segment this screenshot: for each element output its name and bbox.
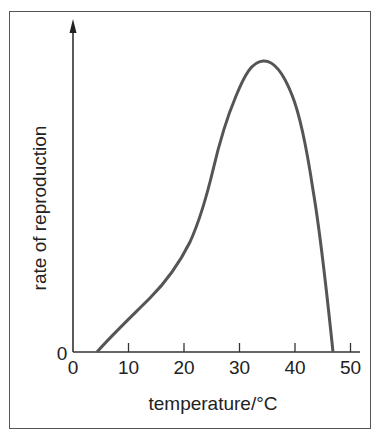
x-tick-label: 10 bbox=[118, 357, 139, 378]
y-axis-title: rate of reproduction bbox=[29, 126, 50, 291]
y-axis-arrow-icon bbox=[70, 19, 77, 33]
x-tick-label: 30 bbox=[229, 357, 250, 378]
x-tick-label: 50 bbox=[340, 357, 361, 378]
x-ticks bbox=[129, 343, 351, 352]
x-tick-label: 20 bbox=[173, 357, 194, 378]
x-axis-title: temperature/°C bbox=[148, 393, 277, 414]
chart-svg: 0 10 20 30 40 50 0 temperature/°C rate o… bbox=[0, 0, 374, 435]
x-tick-label: 40 bbox=[284, 357, 305, 378]
y-origin-label: 0 bbox=[57, 343, 68, 364]
x-tick-label: 0 bbox=[68, 357, 79, 378]
rate-curve bbox=[97, 61, 333, 352]
